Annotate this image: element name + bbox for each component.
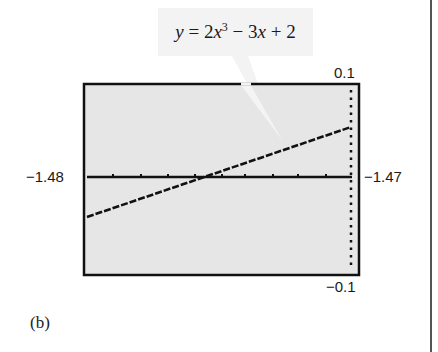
eq-part: + 2 [266,21,296,42]
xmin-label: −1.48 [26,168,64,185]
equation-callout: y = 2x3 − 3x + 2 [158,8,313,56]
xmax-label: −1.47 [364,168,402,185]
eq-y: y [175,21,183,42]
eq-part: = 2 [184,21,214,42]
equation-label: y = 2x3 − 3x + 2 [158,20,313,43]
eq-x: x [213,21,221,42]
eq-x: x [258,21,266,42]
figure-caption: (b) [30,313,50,333]
ymax-label: 0.1 [334,64,355,81]
ymin-label: −0.1 [326,278,356,295]
eq-part: − 3 [228,21,258,42]
plot-area [84,84,359,275]
